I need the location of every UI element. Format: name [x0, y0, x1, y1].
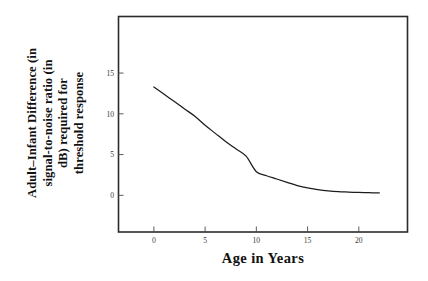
x-tick-label-5: 5 — [203, 236, 207, 245]
x-axis-title: Age in Years — [118, 250, 408, 267]
data-series-line — [154, 87, 379, 193]
y-tick-label-10: 10 — [106, 110, 114, 119]
x-axis-ticks — [154, 227, 359, 233]
y-tick-label-0: 0 — [110, 191, 114, 200]
x-tick-label-10: 10 — [253, 236, 261, 245]
plot-frame — [119, 17, 408, 233]
y-tick-label-15: 15 — [106, 69, 114, 78]
y-tick-label-5: 5 — [110, 150, 114, 159]
x-tick-label-0: 0 — [152, 236, 156, 245]
x-tick-label-20: 20 — [355, 236, 363, 245]
chart-figure: Adult–Infant Difference (in signal-to-no… — [0, 0, 428, 281]
plot-area: 05101520 051015 — [0, 0, 428, 281]
x-axis-tick-labels: 05101520 — [152, 236, 363, 245]
y-axis-tick-labels: 051015 — [106, 69, 114, 200]
x-tick-label-15: 15 — [304, 236, 312, 245]
